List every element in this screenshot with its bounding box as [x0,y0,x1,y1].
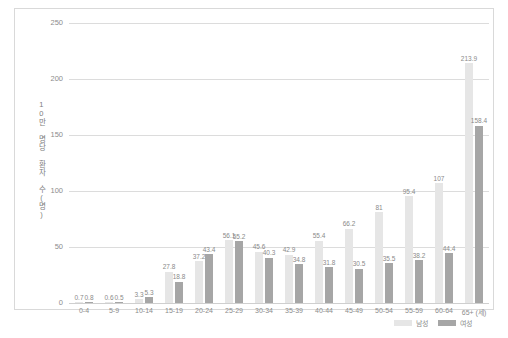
bar-value-label: 95.4 [403,189,416,196]
legend-label: 남성 [416,318,428,328]
bar-group: 45.640.3 [249,23,279,303]
x-axis-tick-labels: 0-45-910-1415-1920-2425-2930-3435-3940-4… [69,307,489,317]
legend-swatch [394,320,412,326]
bar[interactable]: 40.3 [265,258,273,303]
bar[interactable]: 55.4 [315,241,323,303]
legend-swatch [438,320,456,326]
chart-frame: 10만 명당 환자 수(명) 050100150200250 0.70.80.6… [14,8,494,310]
y-axis-title: 10만 명당 환자 수(명) [37,100,45,219]
bar[interactable]: 0.6 [105,302,113,303]
bar-value-label: 0.8 [84,295,93,302]
x-axis-tick-label: 65+ (세) [459,307,489,317]
x-axis-tick-label: 5-9 [99,307,129,317]
bar-value-label: 107 [434,176,445,183]
x-axis-tick-label: 40-44 [309,307,339,317]
bar-value-label: 30.5 [353,261,366,268]
bar[interactable]: 44.4 [445,253,453,303]
bar-value-label: 0.6 [104,295,113,302]
bar-group: 213.9158.4 [459,23,489,303]
bar[interactable]: 35.5 [385,263,393,303]
x-axis-tick-label: 20-24 [189,307,219,317]
bar[interactable]: 55.2 [235,241,243,303]
bar-group: 10744.4 [429,23,459,303]
bar-group: 0.70.8 [69,23,99,303]
bar[interactable]: 43.4 [205,254,213,303]
bar-value-label: 31.8 [323,260,336,267]
bar[interactable]: 95.4 [405,196,413,303]
bar-value-label: 0.5 [114,295,123,302]
bar-value-label: 158.4 [471,118,487,125]
bar-group: 66.230.5 [339,23,369,303]
bar-value-label: 81 [375,205,382,212]
y-axis-tick-label: 100 [50,187,63,195]
bar-value-label: 5.3 [144,290,153,297]
bar[interactable]: 3.3 [135,299,143,303]
bar-value-label: 55.4 [313,233,326,240]
bar[interactable]: 38.2 [415,260,423,303]
bar-value-label: 35.5 [383,256,396,263]
bar-value-label: 3.3 [134,292,143,299]
bar-group: 55.431.8 [309,23,339,303]
gridline: 0 [69,303,489,304]
bar[interactable]: 5.3 [145,297,153,303]
y-axis-tick-label: 50 [55,243,63,251]
x-axis-tick-label: 25-29 [219,307,249,317]
bar-group: 37.243.4 [189,23,219,303]
bar-value-label: 44.4 [443,246,456,253]
plot-area: 050100150200250 0.70.80.60.53.35.327.818… [69,23,489,303]
chart-legend: 남성여성 [0,318,494,328]
legend-item[interactable]: 여성 [438,318,472,328]
x-axis-tick-label: 55-59 [399,307,429,317]
bar[interactable]: 30.5 [355,269,363,303]
bar-value-label: 18.8 [173,274,186,281]
x-axis-tick-label: 35-39 [279,307,309,317]
bar-value-label: 43.4 [203,247,216,254]
bar[interactable]: 0.5 [115,302,123,303]
y-axis-tick-label: 0 [59,299,63,307]
bar-group: 95.438.2 [399,23,429,303]
x-axis-tick-label: 60-64 [429,307,459,317]
x-axis-tick-label: 50-54 [369,307,399,317]
bar-value-label: 66.2 [343,221,356,228]
bar[interactable]: 34.8 [295,264,303,303]
bar-value-label: 55.2 [233,234,246,241]
bar-group: 0.60.5 [99,23,129,303]
bar-value-label: 27.8 [163,264,176,271]
x-axis-tick-label: 30-34 [249,307,279,317]
bar-value-label: 38.2 [413,253,426,260]
bar-group: 3.35.3 [129,23,159,303]
y-axis-tick-label: 150 [50,131,63,139]
bar[interactable]: 0.7 [75,302,83,303]
x-axis-tick-label: 15-19 [159,307,189,317]
bar[interactable]: 0.8 [85,302,93,303]
bar-value-label: 37.2 [193,254,206,261]
bar-value-label: 42.9 [283,247,296,254]
bar-group: 27.818.8 [159,23,189,303]
bar[interactable]: 158.4 [475,126,483,303]
bar[interactable]: 31.8 [325,267,333,303]
x-axis-tick-label: 10-14 [129,307,159,317]
x-axis-tick-label: 0-4 [69,307,99,317]
y-axis-tick-label: 250 [50,19,63,27]
bar[interactable]: 213.9 [465,63,473,303]
bar[interactable]: 56.1 [225,240,233,303]
bar-group: 42.934.8 [279,23,309,303]
bar-value-label: 213.9 [461,56,477,63]
bar-value-label: 40.3 [263,250,276,257]
y-axis-tick-label: 200 [50,75,63,83]
bar[interactable]: 37.2 [195,261,203,303]
legend-label: 여성 [460,318,472,328]
bar-group: 8135.5 [369,23,399,303]
bar[interactable]: 107 [435,183,443,303]
bar[interactable]: 18.8 [175,282,183,303]
bars-layer: 0.70.80.60.53.35.327.818.837.243.456.155… [69,23,489,303]
x-axis-tick-label: 45-49 [339,307,369,317]
bar-group: 56.155.2 [219,23,249,303]
bar-value-label: 0.7 [74,295,83,302]
bar-value-label: 34.8 [293,257,306,264]
bar[interactable]: 45.6 [255,252,263,303]
legend-item[interactable]: 남성 [394,318,428,328]
